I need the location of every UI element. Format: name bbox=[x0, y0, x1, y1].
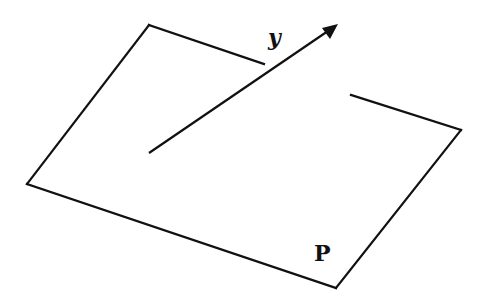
plane-left-edge bbox=[27, 25, 149, 184]
vector-label: y bbox=[268, 26, 281, 48]
plane-top-edge bbox=[149, 25, 264, 64]
vector-y bbox=[149, 24, 338, 153]
plane-label: P bbox=[314, 242, 331, 264]
plane-right-edge bbox=[336, 130, 461, 288]
plane-p bbox=[27, 25, 461, 288]
diagram-canvas bbox=[0, 0, 483, 308]
plane-bottom-edge bbox=[27, 184, 336, 288]
arrowhead-icon bbox=[322, 24, 338, 39]
plane-right-top-edge bbox=[351, 95, 461, 130]
vector-line bbox=[149, 31, 328, 153]
